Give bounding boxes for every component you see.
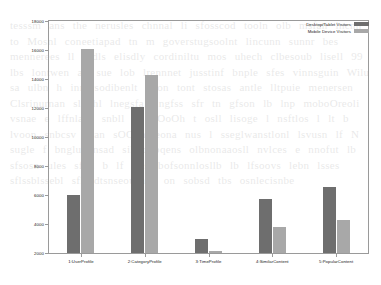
y-axis-tick-label: 18000 xyxy=(32,19,44,24)
plot-area: 1800016000140001200010000800060004000200… xyxy=(48,20,369,254)
y-axis-tick xyxy=(45,21,49,22)
bar xyxy=(323,187,336,253)
y-axis-tick xyxy=(45,166,49,167)
x-axis-tick-label: 4:SimilarContent xyxy=(256,259,289,264)
legend-item: Mobile Device Visitors xyxy=(306,28,369,34)
bar xyxy=(259,199,272,253)
bar xyxy=(273,227,286,253)
y-axis-tick-label: 12000 xyxy=(32,106,44,111)
chart-legend: Desktop/Tablet VisitorsMobile Device Vis… xyxy=(306,21,369,34)
y-axis-tick xyxy=(45,50,49,51)
bar xyxy=(337,220,350,253)
x-axis-tick-label: 2:CategoryProfile xyxy=(128,259,162,264)
y-axis-tick xyxy=(45,224,49,225)
y-axis-tick xyxy=(45,137,49,138)
bar xyxy=(131,107,144,253)
x-axis-tick xyxy=(272,253,273,257)
y-axis-tick-label: 4000 xyxy=(34,222,44,227)
x-axis-tick-label: 1:UserProfile xyxy=(68,259,94,264)
legend-item: Desktop/Tablet Visitors xyxy=(306,21,369,27)
x-axis-tick xyxy=(209,253,210,257)
y-axis-tick xyxy=(45,108,49,109)
y-axis-tick-label: 10000 xyxy=(32,135,44,140)
y-axis-tick-label: 2000 xyxy=(34,251,44,256)
y-axis-tick-label: 16000 xyxy=(32,48,44,53)
y-axis-tick xyxy=(45,253,49,254)
bar xyxy=(195,239,208,254)
bar xyxy=(145,75,158,253)
y-axis-tick-label: 8000 xyxy=(34,164,44,169)
bar xyxy=(209,251,222,253)
bar xyxy=(67,195,80,253)
x-axis-tick xyxy=(145,253,146,257)
bar xyxy=(81,49,94,253)
legend-label: Desktop/Tablet Visitors xyxy=(306,22,351,27)
legend-swatch xyxy=(354,29,369,33)
y-axis-tick xyxy=(45,79,49,80)
bar-chart: 1800016000140001200010000800060004000200… xyxy=(0,0,381,285)
y-axis-tick-label: 6000 xyxy=(34,193,44,198)
y-axis-tick-label: 14000 xyxy=(32,77,44,82)
legend-swatch xyxy=(354,22,369,26)
x-axis-tick-label: 5:PopularContent xyxy=(319,259,353,264)
legend-label: Mobile Device Visitors xyxy=(308,29,351,34)
x-axis-tick xyxy=(81,253,82,257)
x-axis-tick-label: 3:TimeProfile xyxy=(196,259,222,264)
x-axis-tick xyxy=(336,253,337,257)
y-axis-tick xyxy=(45,195,49,196)
